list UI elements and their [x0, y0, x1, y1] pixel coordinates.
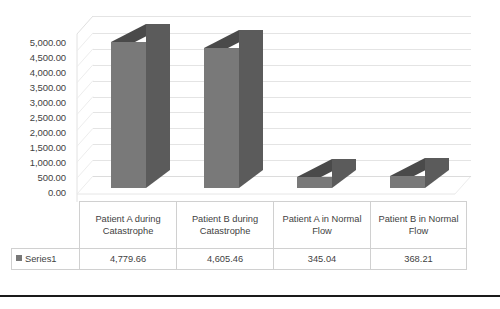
gridline-3500 — [93, 65, 471, 66]
chart-data-table[interactable]: Patient A during Catastrophe Patient B d… — [11, 201, 467, 270]
y-axis-tick-4000: 4,000.00 — [0, 68, 66, 78]
gridline-1500 — [93, 128, 471, 129]
table-column-header-patient-b-during-catastrophe: Patient B during Catastrophe — [177, 202, 274, 249]
y-axis-tick-1500: 1,500.00 — [0, 143, 66, 153]
table-cell-patient-a-during-catastrophe: 4,779.66 — [80, 249, 177, 270]
table-cell-patient-a-in-normal-flow: 345.04 — [274, 249, 371, 270]
y-axis-tick-3500: 3,500.00 — [0, 83, 66, 93]
table-column-header-patient-b-in-normal-flow: Patient B in Normal Flow — [371, 202, 467, 249]
table-column-header-patient-a-in-normal-flow: Patient A in Normal Flow — [274, 202, 371, 249]
table-cell-patient-b-during-catastrophe: 4,605.46 — [177, 249, 274, 270]
chart-widget[interactable]: 5,000.00 4,500.00 4,000.00 3,500.00 3,00… — [0, 0, 500, 309]
table-column-header-patient-a-during-catastrophe: Patient A during Catastrophe — [80, 202, 177, 249]
table-cell-patient-b-in-normal-flow: 368.21 — [371, 249, 467, 270]
y-axis-tick-3000: 3,000.00 — [0, 98, 66, 108]
table-header-row: Patient A during Catastrophe Patient B d… — [12, 202, 467, 249]
gridline-500 — [93, 160, 471, 161]
gridline-4500 — [93, 33, 471, 34]
y-axis-tick-4500: 4,500.00 — [0, 53, 66, 63]
y-axis-tick-1000: 1,000.00 — [0, 158, 66, 168]
chart-back-wall — [93, 16, 471, 192]
legend-label: Series1 — [25, 253, 57, 265]
chart-plot-area[interactable]: 5,000.00 4,500.00 4,000.00 3,500.00 3,00… — [0, 0, 500, 208]
table-row[interactable]: Series1 4,779.66 4,605.46 345.04 368.21 — [12, 249, 467, 270]
y-axis-tick-5000: 5,000.00 — [0, 38, 66, 48]
gridline-2000 — [93, 112, 471, 113]
y-axis-tick-2000: 2,000.00 — [0, 128, 66, 138]
gridline-4000 — [93, 49, 471, 50]
series-color-swatch-icon — [16, 255, 22, 261]
gridline-0 — [93, 176, 471, 177]
y-axis-tick-500: 500.00 — [0, 173, 66, 183]
gridline-5000 — [93, 16, 471, 17]
y-axis-tick-2500: 2,500.00 — [0, 113, 66, 123]
gridline-1000 — [93, 144, 471, 145]
gridline-3000 — [93, 81, 471, 82]
legend-entry-series1[interactable]: Series1 — [12, 249, 80, 270]
gridline-2500 — [93, 97, 471, 98]
y-axis-tick-0: 0.00 — [0, 188, 66, 198]
table-corner-cell — [12, 202, 80, 249]
bottom-divider — [0, 295, 500, 297]
